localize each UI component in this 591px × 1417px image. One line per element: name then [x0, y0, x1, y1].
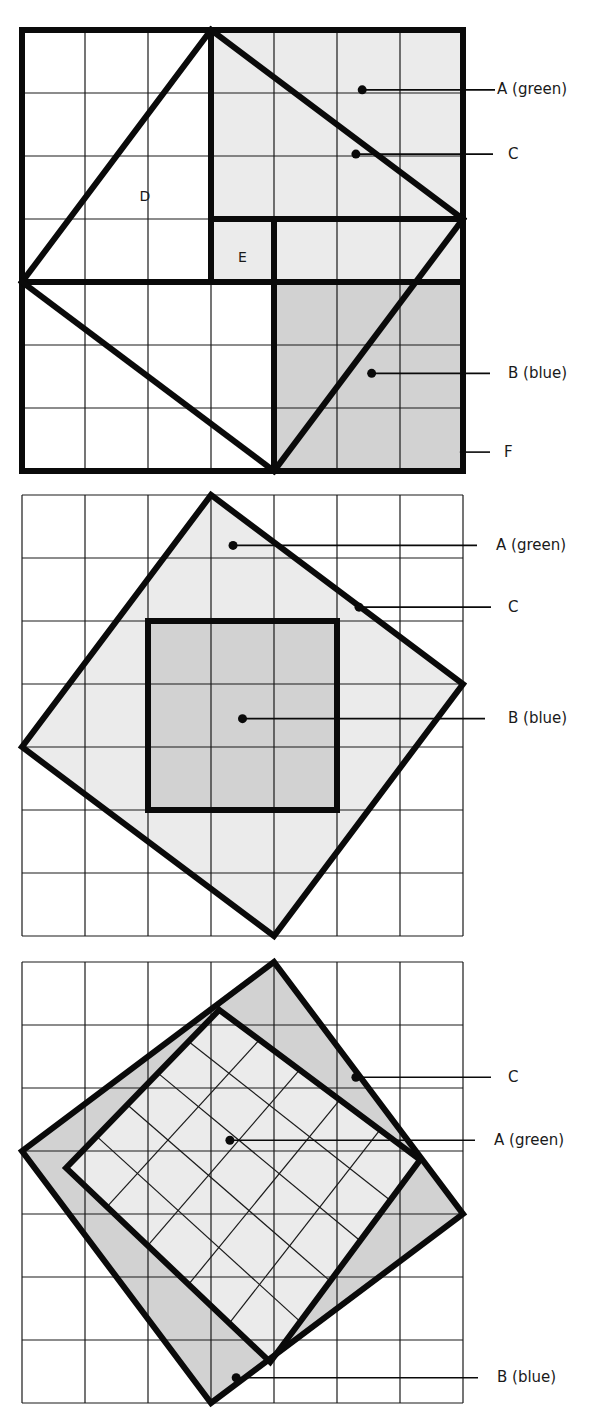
callout-label: C [508, 145, 518, 163]
callout-label: C [508, 1068, 518, 1086]
leader-dot [355, 603, 364, 612]
leader-dot [367, 369, 376, 378]
leader-dot [358, 85, 367, 94]
region-a-green-inner-square [66, 1010, 420, 1362]
callout-label: B (blue) [508, 364, 567, 382]
leader-dot [238, 714, 247, 723]
callout-f: F [460, 443, 513, 461]
callout-label: A (green) [496, 536, 566, 554]
diagram-rotated-squares: CA (green)B (blue) [22, 962, 564, 1403]
callout-label: A (green) [497, 80, 567, 98]
callout-label: B (blue) [508, 709, 567, 727]
region-label-d: D [139, 188, 150, 204]
region-top-right-strip [274, 219, 463, 282]
leader-dot [229, 541, 238, 550]
callout-label: F [504, 443, 513, 461]
leader-dot [351, 1073, 360, 1082]
pythagorean-proof-diagrams: DEA (green)CB (blue)F A (green)CB (blue)… [0, 0, 591, 1417]
callout-label: B (blue) [497, 1368, 556, 1386]
diagram-tilted-square-c: A (green)CB (blue) [22, 495, 567, 936]
region-label-e: E [238, 249, 247, 265]
leader-dot [225, 1136, 234, 1145]
callout-label: A (green) [494, 1131, 564, 1149]
diagram-rearrangement-square: DEA (green)CB (blue)F [22, 30, 567, 471]
callout-label: C [508, 598, 518, 616]
callout-b: B (blue) [232, 1368, 556, 1386]
leader-dot [232, 1373, 241, 1382]
leader-dot [351, 150, 360, 159]
callout-c: C [355, 598, 519, 616]
callout-c: C [351, 1068, 518, 1086]
